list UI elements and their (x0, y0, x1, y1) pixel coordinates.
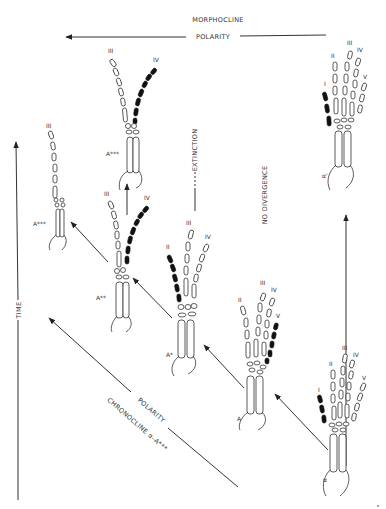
arrow-Astar-to-A2star (133, 278, 172, 318)
arrow-A2star-to-A3star-left (71, 222, 108, 262)
svg-text:III: III (46, 122, 52, 129)
taxon-label-Astar: A* (166, 351, 173, 358)
chronocline-label: CHRONOCLINE α–A*** (106, 396, 170, 453)
svg-text:III: III (186, 219, 192, 226)
no-divergence-label: NO DIVERGENCE (261, 166, 269, 225)
svg-text:V: V (276, 312, 281, 319)
svg-text:IV: IV (205, 233, 212, 240)
svg-text:V: V (363, 73, 368, 80)
svg-text:V: V (362, 374, 367, 381)
chronocline-arrow (49, 318, 131, 392)
taxon-A2star-hand: III IV A** (96, 190, 151, 332)
svg-text:III: III (347, 39, 353, 46)
morphocline-label: MORPHOCLINE (192, 16, 244, 24)
morphocline-header: MORPHOCLINE POLARITY (66, 16, 326, 41)
taxon-label-A3star-top: A*** (106, 150, 119, 157)
taxon-alpha-prime-hand: I II III IV V α' (322, 39, 368, 190)
extinction-label: EXTINCTION (191, 129, 199, 172)
svg-text:IV: IV (353, 351, 360, 358)
svg-text:IV: IV (153, 56, 160, 63)
svg-text:IV: IV (144, 194, 151, 201)
taxon-Astar-hand: II III IV A* (166, 219, 212, 376)
taxon-A-hand: II III IV V A (237, 279, 281, 430)
svg-text:IV: IV (357, 46, 364, 53)
time-label: TIME (15, 302, 23, 320)
diagonal-polarity-label: POLARITY (136, 396, 167, 424)
svg-text:II: II (166, 243, 170, 250)
svg-text:I: I (318, 386, 320, 393)
svg-text:IV: IV (271, 286, 278, 293)
taxon-A3star-left-hand: III A*** (33, 122, 66, 250)
svg-text:III: III (260, 279, 266, 286)
taxon-label-A3star-left: A*** (33, 220, 46, 227)
time-axis: TIME (15, 142, 23, 500)
svg-text:II: II (238, 296, 242, 303)
svg-text:III: III (108, 47, 114, 54)
time-arrow (16, 142, 18, 300)
taxon-label-alpha-prime: α' (322, 172, 328, 179)
extinction-marker: EXTINCTION (191, 129, 199, 211)
evolution-arrows (71, 184, 346, 466)
polarity-line-right (240, 35, 326, 36)
taxon-alpha-hand: I II III IV V α (317, 344, 367, 496)
svg-text:III: III (104, 190, 110, 197)
svg-text:II: II (331, 52, 335, 59)
top-polarity-label: POLARITY (196, 33, 230, 41)
svg-text:II: II (329, 360, 333, 367)
taxon-label-A: A (237, 415, 242, 422)
taxon-label-A2star: A** (96, 294, 106, 301)
phylogeny-diagram: MORPHOCLINE POLARITY TIME EXTINCTION NO … (0, 0, 386, 509)
stray-dot (377, 505, 379, 507)
svg-text:III: III (342, 344, 348, 351)
chronocline-axis: POLARITY CHRONOCLINE α–A*** (49, 318, 238, 487)
taxon-A3star-top-hand: III IV A*** (106, 47, 160, 190)
taxon-label-alpha: α (323, 476, 327, 483)
arrow-A-to-Astar (204, 345, 244, 388)
svg-text:I: I (324, 80, 326, 87)
